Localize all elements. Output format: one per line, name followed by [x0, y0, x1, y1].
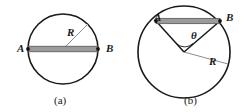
label-angle-theta: θ	[191, 30, 197, 41]
panel-a: A B R (a)	[0, 0, 122, 112]
point-b-marker	[218, 19, 222, 23]
diameter-chord-a	[28, 46, 98, 52]
caption-panel-a: (a)	[54, 95, 66, 106]
panel-b: A B θ R (b)	[122, 0, 244, 112]
caption-panel-b: (b)	[184, 95, 197, 106]
figure-circle-chord-diagram: A B R (a) A B θ R (b)	[0, 0, 244, 112]
chord-ab-b	[156, 18, 220, 23]
point-b-marker	[96, 47, 100, 51]
label-point-a: A	[154, 12, 161, 23]
angle-arm-to-a	[156, 21, 184, 52]
label-point-a: A	[17, 43, 24, 54]
label-radius-b: R	[209, 56, 216, 67]
angle-arm-to-b	[184, 21, 220, 52]
point-a-marker	[26, 47, 30, 51]
label-point-b: B	[106, 43, 113, 54]
label-point-b: B	[226, 12, 233, 23]
label-radius-a: R	[67, 27, 74, 38]
radius-line-b	[184, 52, 228, 64]
